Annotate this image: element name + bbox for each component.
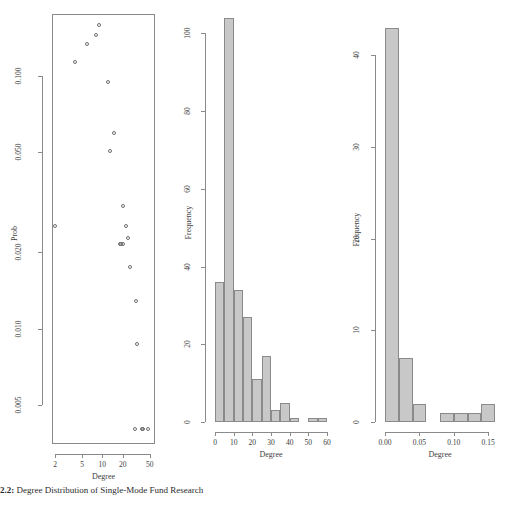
y-tick-label: 20 xyxy=(183,332,192,356)
x-axis-line xyxy=(385,432,488,433)
y-tick xyxy=(201,344,205,345)
scatter-point xyxy=(126,236,130,240)
x-tick xyxy=(102,454,103,458)
histogram-norm-x-axis-title: Degree xyxy=(428,450,451,459)
histogram-bar xyxy=(385,28,399,422)
scatter-point xyxy=(128,265,132,269)
histogram-bar xyxy=(318,418,327,422)
y-tick xyxy=(371,55,375,56)
x-tick-label: 10 xyxy=(230,438,238,447)
y-tick xyxy=(38,152,42,153)
y-tick-label: 30 xyxy=(352,134,361,160)
x-tick xyxy=(419,432,420,436)
scatter-point xyxy=(124,224,128,228)
scatter-x-axis-title: Degree xyxy=(92,472,115,481)
scatter-y-axis-title: Prob xyxy=(10,214,19,254)
histogram-bar xyxy=(454,413,468,422)
scatter-point xyxy=(97,23,101,27)
y-tick-label: 0.010 xyxy=(14,311,23,347)
scatter-point xyxy=(53,224,57,228)
y-tick-label: 40 xyxy=(352,42,361,68)
figure-degree-distribution: 25102050 0.0050.0100.0200.0500.100 Degre… xyxy=(0,0,513,505)
histogram-bar xyxy=(440,413,454,422)
x-tick xyxy=(150,454,151,458)
panel-histogram-degree: 0102030405060 020406080100 Degree Freque… xyxy=(175,0,343,480)
x-tick xyxy=(454,432,455,436)
x-tick xyxy=(252,432,253,436)
x-tick-label: 40 xyxy=(286,438,294,447)
y-axis-line xyxy=(42,76,43,405)
histogram-norm-y-axis-title: Frequency xyxy=(352,205,361,255)
panel-scatter-prob-degree: 25102050 0.0050.0100.0200.0500.100 Degre… xyxy=(0,0,175,480)
y-tick-label: 100 xyxy=(183,21,192,45)
histogram-bar xyxy=(413,404,427,422)
scatter-plot-frame xyxy=(52,14,155,444)
x-tick-label: 0.10 xyxy=(447,438,460,447)
y-tick-label: 0.100 xyxy=(14,58,23,94)
y-tick-label: 0.005 xyxy=(14,387,23,423)
x-tick xyxy=(215,432,216,436)
x-tick xyxy=(290,432,291,436)
x-tick xyxy=(385,432,386,436)
panel-histogram-normalized-degree: 0.000.050.100.15 010203040 Degree Freque… xyxy=(343,0,513,480)
x-tick-label: 50 xyxy=(146,460,154,469)
y-axis-line xyxy=(205,33,206,422)
scatter-point xyxy=(135,342,139,346)
x-tick-label: 20 xyxy=(119,460,127,469)
y-tick xyxy=(38,329,42,330)
y-tick xyxy=(371,147,375,148)
x-tick-label: 5 xyxy=(80,460,84,469)
scatter-point xyxy=(94,33,98,37)
x-tick xyxy=(488,432,489,436)
histogram-bar xyxy=(252,379,261,422)
scatter-point xyxy=(121,204,125,208)
x-tick-label: 60 xyxy=(323,438,331,447)
histogram-bar xyxy=(468,413,482,422)
histogram-x-axis-title: Degree xyxy=(259,450,282,459)
x-tick xyxy=(271,432,272,436)
y-tick xyxy=(201,189,205,190)
y-tick xyxy=(38,76,42,77)
x-tick-label: 2 xyxy=(53,460,57,469)
x-tick-label: 0.05 xyxy=(413,438,426,447)
y-tick xyxy=(371,330,375,331)
scatter-point xyxy=(133,427,137,431)
y-tick xyxy=(38,252,42,253)
y-tick xyxy=(371,422,375,423)
scatter-point xyxy=(108,149,112,153)
histogram-bar xyxy=(234,290,243,422)
y-tick xyxy=(201,111,205,112)
x-tick-label: 0.15 xyxy=(482,438,495,447)
y-tick-label: 10 xyxy=(352,317,361,343)
scatter-point xyxy=(146,427,150,431)
x-tick xyxy=(82,454,83,458)
x-tick-label: 0 xyxy=(213,438,217,447)
histogram-bar xyxy=(399,358,413,422)
figure-caption: 2.2: Degree Distribution of Single-Mode … xyxy=(0,484,513,505)
histogram-bar xyxy=(271,410,280,422)
histogram-bar xyxy=(308,418,317,422)
y-tick xyxy=(371,239,375,240)
y-tick xyxy=(201,267,205,268)
y-tick-label: 80 xyxy=(183,99,192,123)
y-tick-label: 40 xyxy=(183,255,192,279)
scatter-point xyxy=(134,299,138,303)
scatter-point xyxy=(106,80,110,84)
histogram-y-axis-title: Frequency xyxy=(184,198,193,248)
histogram-bar xyxy=(481,404,495,422)
histogram-bar xyxy=(224,18,233,422)
figure-caption-text: Degree Distribution of Single-Mode Fund … xyxy=(17,485,204,495)
y-tick-label: 0 xyxy=(183,410,192,434)
x-tick-label: 50 xyxy=(305,438,313,447)
y-tick-label: 0 xyxy=(352,409,361,435)
x-tick-label: 10 xyxy=(99,460,107,469)
histogram-bar xyxy=(243,317,252,422)
x-tick xyxy=(327,432,328,436)
x-tick xyxy=(55,454,56,458)
y-tick-label: 0.050 xyxy=(14,134,23,170)
x-tick xyxy=(234,432,235,436)
x-tick-label: 30 xyxy=(267,438,275,447)
y-tick xyxy=(201,33,205,34)
y-axis-line xyxy=(375,55,376,422)
scatter-point xyxy=(112,131,116,135)
